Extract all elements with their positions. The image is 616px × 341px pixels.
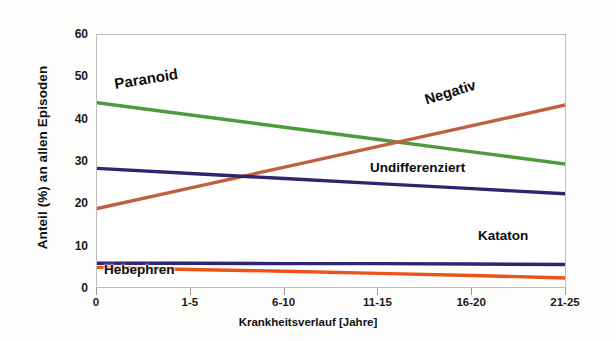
x-axis-title: Krankheitsverlauf [Jahre] bbox=[0, 316, 616, 328]
series-label-kataton: Kataton bbox=[478, 228, 528, 243]
x-tick-mark-1-5 bbox=[190, 288, 191, 295]
x-tick-21-25: 21-25 bbox=[550, 296, 579, 308]
x-tick-6-10: 6-10 bbox=[272, 296, 295, 308]
y-tick-60: 60 bbox=[62, 27, 88, 41]
x-tick-mark-16-20 bbox=[471, 288, 472, 295]
x-tick-16-20: 16-20 bbox=[456, 296, 485, 308]
series-label-hebephren: Hebephren bbox=[104, 262, 175, 277]
y-tick-0: 0 bbox=[62, 281, 88, 295]
y-axis-tick-labels: 6050403020100 bbox=[56, 0, 88, 341]
y-tick-40: 40 bbox=[62, 112, 88, 126]
x-tick-11-15: 11-15 bbox=[363, 296, 392, 308]
x-tick-0: 0 bbox=[93, 296, 99, 308]
line-paranoid bbox=[97, 103, 566, 164]
y-axis-title: Anteil (%) an allen Episoden bbox=[35, 28, 50, 288]
x-tick-mark-0 bbox=[96, 288, 97, 295]
x-tick-1-5: 1-5 bbox=[181, 296, 198, 308]
x-axis-tick-labels: 01-56-1011-1516-2021-25 bbox=[0, 296, 616, 314]
y-tick-30: 30 bbox=[62, 154, 88, 168]
y-tick-50: 50 bbox=[62, 69, 88, 83]
x-tick-mark-21-25 bbox=[565, 288, 566, 295]
x-tick-mark-6-10 bbox=[284, 288, 285, 295]
y-tick-10: 10 bbox=[62, 239, 88, 253]
x-tick-mark-11-15 bbox=[377, 288, 378, 295]
chart-figure: Anteil (%) an allen Episoden 60504030201… bbox=[0, 0, 616, 341]
series-label-undifferenziert: Undifferenziert bbox=[370, 160, 465, 175]
y-tick-20: 20 bbox=[62, 196, 88, 210]
line-undifferenziert bbox=[97, 168, 566, 193]
line-negativ bbox=[97, 105, 566, 209]
